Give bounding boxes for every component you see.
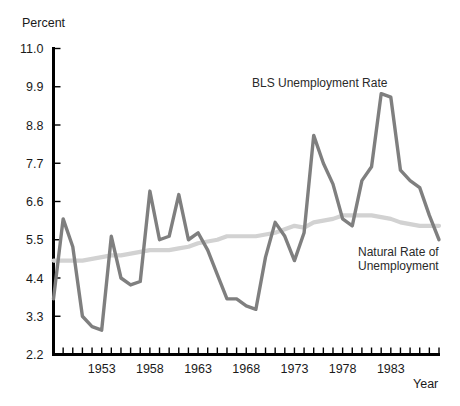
unemployment-line-chart: Percent Year 2.23.34.45.56.67.78.89.911.… [0,0,460,406]
bls-unemployment-line [54,94,440,330]
y-axis-tick-label: 9.9 [26,80,43,94]
y-axis-tick-label: 5.5 [26,233,43,247]
x-axis-ticks: 1953195819631968197319781983 [54,348,440,376]
x-axis-tick-label: 1983 [377,362,405,376]
x-axis-tick-label: 1968 [232,362,260,376]
series-paths [54,94,440,330]
x-axis-tick-label: 1953 [88,362,116,376]
natural-series-label-line2: Unemployment [358,259,439,273]
y-axis-tick-label: 6.6 [26,195,43,209]
natural-series-label-line1: Natural Rate of [358,245,439,259]
x-axis-tick-label: 1973 [281,362,309,376]
y-axis-title: Percent [22,16,66,30]
chart-canvas: Percent Year 2.23.34.45.56.67.78.89.911.… [0,0,460,406]
y-axis-tick-label: 2.2 [26,348,43,362]
x-axis-title: Year [413,377,438,391]
y-axis-tick-label: 4.4 [26,272,43,286]
x-axis-tick-label: 1978 [329,362,357,376]
y-axis-tick-label: 11.0 [20,42,43,56]
bls-series-label: BLS Unemployment Rate [252,76,388,90]
y-axis-tick-label: 8.8 [26,119,43,133]
x-axis-tick-label: 1963 [184,362,212,376]
y-axis-tick-label: 7.7 [26,157,43,171]
x-axis-tick-label: 1958 [136,362,164,376]
y-axis-tick-label: 3.3 [26,310,43,324]
